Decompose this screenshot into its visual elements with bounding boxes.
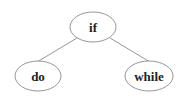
- tree-diagram: if do while: [0, 0, 183, 103]
- node-if: if: [70, 12, 116, 42]
- node-while: while: [125, 61, 173, 91]
- edge-if-do: [37, 38, 77, 62]
- node-do: do: [15, 61, 61, 91]
- node-do-label: do: [31, 69, 45, 84]
- edge-if-while: [110, 38, 150, 62]
- node-while-label: while: [134, 69, 164, 84]
- node-if-label: if: [89, 20, 98, 35]
